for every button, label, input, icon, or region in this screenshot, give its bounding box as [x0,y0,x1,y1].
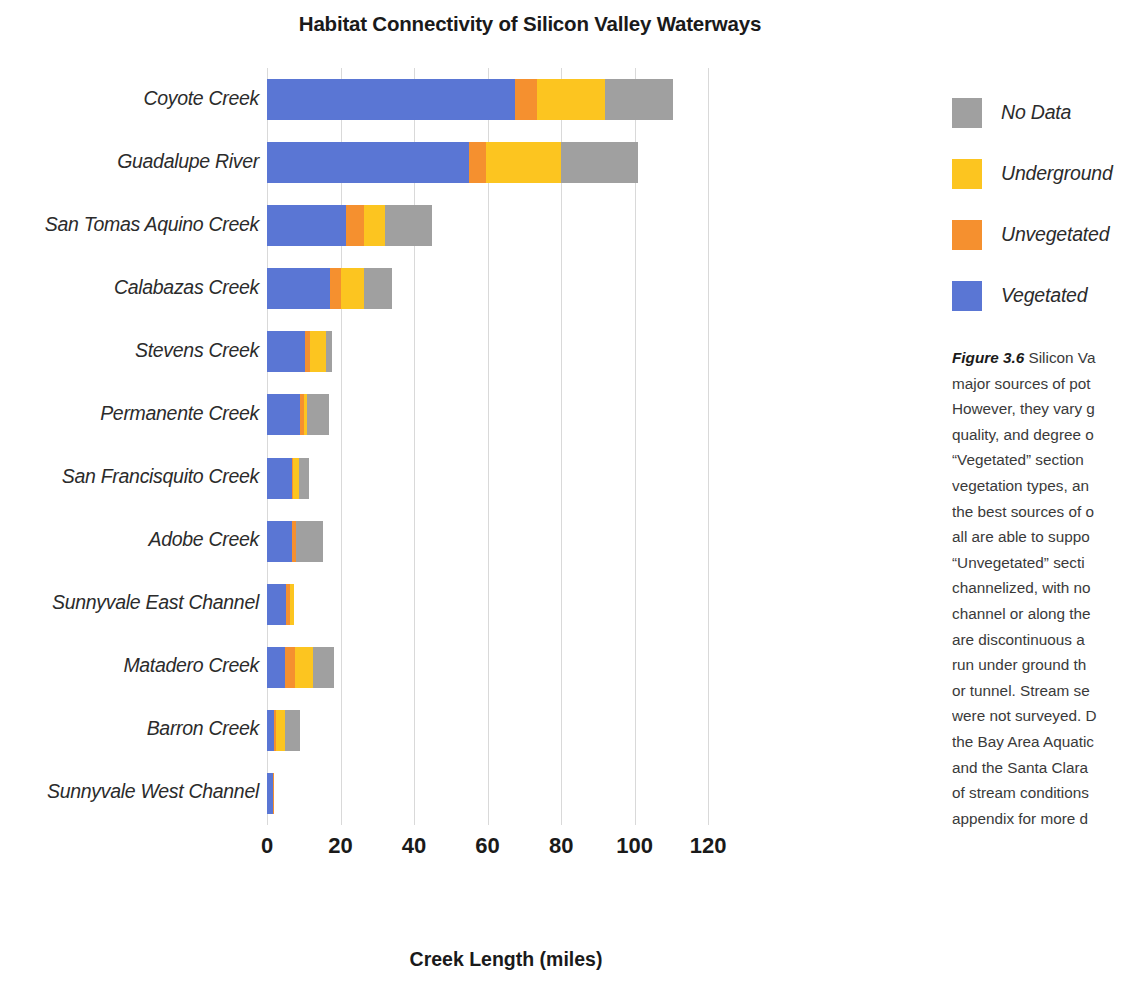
bar-segment-vegetated[interactable] [267,647,285,688]
caption-line: channelized, with no [952,575,1138,601]
bar-segment-no-data[interactable] [313,647,334,688]
y-axis-label: Matadero Creek [0,654,259,677]
legend-label: Underground [1001,162,1113,185]
bar-segment-vegetated[interactable] [267,394,300,435]
caption-line: appendix for more d [952,806,1138,832]
x-axis-title: Creek Length (miles) [267,948,745,971]
x-axis-tick-label: 80 [549,833,573,859]
bar-row[interactable] [267,447,309,510]
y-axis-label: Adobe Creek [0,528,259,551]
y-axis-label: Stevens Creek [0,339,259,362]
caption-line: the Bay Area Aquatic [952,729,1138,755]
bar-segment-no-data[interactable] [326,331,332,372]
bar-segment-unvegetated[interactable] [285,647,294,688]
bar-row[interactable] [267,636,334,699]
caption-line: the best sources of o [952,499,1138,525]
bar-row[interactable] [267,194,432,257]
bar-segment-vegetated[interactable] [267,521,292,562]
bar-series-container [267,68,745,825]
bar-segment-vegetated[interactable] [267,205,346,246]
legend-label: No Data [1001,101,1071,124]
bar-row[interactable] [267,762,274,825]
caption-line: are discontinuous a [952,627,1138,653]
y-axis-label: San Francisquito Creek [0,465,259,488]
bar-row[interactable] [267,131,638,194]
x-axis-tick-label: 40 [402,833,426,859]
bar-segment-no-data[interactable] [385,205,433,246]
chart-title: Habitat Connectivity of Silicon Valley W… [0,12,1060,36]
bar-segment-no-data[interactable] [561,142,638,183]
bar-segment-underground[interactable] [486,142,561,183]
bar-segment-unvegetated[interactable] [515,79,537,120]
bar-segment-no-data[interactable] [307,394,330,435]
caption-line: channel or along the [952,601,1138,627]
y-axis-label: Calabazas Creek [0,276,259,299]
bar-segment-unvegetated[interactable] [330,268,341,309]
bar-segment-vegetated[interactable] [267,268,330,309]
y-axis-label: Sunnyvale East Channel [0,591,259,614]
bar-segment-vegetated[interactable] [267,331,305,372]
caption-line: all are able to suppo [952,524,1138,550]
bar-row[interactable] [267,383,329,446]
legend-item[interactable]: Vegetated [952,265,1113,326]
caption-line: run under ground th [952,652,1138,678]
caption-line: “Vegetated” section [952,447,1138,473]
bar-row[interactable] [267,320,332,383]
bar-segment-no-data[interactable] [296,521,323,562]
bar-segment-underground[interactable] [295,647,313,688]
y-axis-label: Sunnyvale West Channel [0,780,259,803]
caption-line: quality, and degree o [952,422,1138,448]
chart-legend: No DataUndergroundUnvegetatedVegetated [952,82,1113,326]
y-axis-label: Permanente Creek [0,402,259,425]
bar-segment-no-data[interactable] [285,710,300,751]
bar-segment-vegetated[interactable] [267,142,469,183]
x-axis-tick-label: 100 [616,833,653,859]
bar-segment-underground[interactable] [310,331,327,372]
bar-segment-vegetated[interactable] [267,584,286,625]
legend-item[interactable]: No Data [952,82,1113,143]
legend-swatch-icon [952,281,982,311]
legend-label: Vegetated [1001,284,1087,307]
legend-item[interactable]: Underground [952,143,1113,204]
caption-figure-number: Figure 3.6 [952,349,1029,366]
caption-line: and the Santa Clara [952,755,1138,781]
y-axis-labels: Coyote CreekGuadalupe RiverSan Tomas Aqu… [0,68,259,825]
caption-line: or tunnel. Stream se [952,678,1138,704]
bar-segment-underground[interactable] [276,710,285,751]
plot-area [267,68,745,825]
bar-segment-vegetated[interactable] [267,710,274,751]
legend-swatch-icon [952,220,982,250]
x-axis-tick-label: 20 [328,833,352,859]
x-axis-tick-label: 120 [690,833,727,859]
bar-row[interactable] [267,257,392,320]
bar-row[interactable] [267,68,673,131]
bar-segment-underground[interactable] [364,205,384,246]
bar-segment-unvegetated[interactable] [469,142,486,183]
bar-segment-underground[interactable] [290,584,294,625]
caption-line: However, they vary g [952,396,1138,422]
legend-item[interactable]: Unvegetated [952,204,1113,265]
bar-segment-unvegetated[interactable] [273,773,274,814]
caption-line: “Unvegetated” secti [952,550,1138,576]
figure-caption: Figure 3.6 Silicon Vamajor sources of po… [952,345,1138,835]
bar-segment-vegetated[interactable] [267,458,292,499]
x-axis-tick-label: 60 [475,833,499,859]
bar-segment-vegetated[interactable] [267,79,515,120]
bar-row[interactable] [267,573,294,636]
caption-line: vegetation types, an [952,473,1138,499]
bar-segment-unvegetated[interactable] [346,205,364,246]
bar-segment-no-data[interactable] [605,79,673,120]
legend-label: Unvegetated [1001,223,1109,246]
y-axis-label: Barron Creek [0,717,259,740]
bar-segment-underground[interactable] [537,79,605,120]
bar-row[interactable] [267,699,300,762]
bar-row[interactable] [267,510,323,573]
y-axis-label: Coyote Creek [0,87,259,110]
caption-line: major sources of pot [952,371,1138,397]
caption-line: Figure 3.6 Silicon Va [952,345,1138,371]
legend-swatch-icon [952,159,982,189]
legend-swatch-icon [952,98,982,128]
bar-segment-no-data[interactable] [364,268,392,309]
bar-segment-underground[interactable] [341,268,365,309]
bar-segment-no-data[interactable] [299,458,308,499]
